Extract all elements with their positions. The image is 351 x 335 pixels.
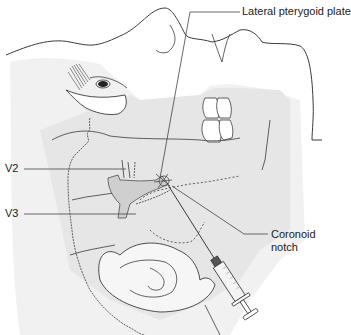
ear-rim [156,25,175,53]
label-coronoid-notch-line2: notch [271,241,316,254]
label-v2: V2 [5,162,18,175]
head-outline [6,8,212,55]
label-coronoid-notch-line1: Coronoid [271,228,316,241]
eye-pupil [98,81,108,87]
label-coronoid-notch: Coronoid notch [271,228,316,254]
label-v3: V3 [5,207,18,220]
label-lateral-pterygoid-plate: Lateral pterygoid plate [242,5,351,18]
nose-ala [212,34,230,62]
teeth [202,98,233,142]
